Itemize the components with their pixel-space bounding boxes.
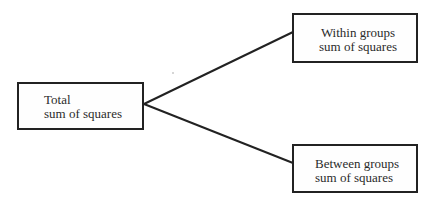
connector-total-to-between (144, 104, 293, 163)
between-label-line1: Between groups (315, 157, 399, 171)
total-label-line2: sum of squares (44, 107, 122, 121)
within-label-line2: sum of squares (319, 40, 397, 54)
within-groups-sum-of-squares-box: Within groups sum of squares (292, 13, 418, 63)
between-label-line2: sum of squares (315, 171, 399, 185)
within-label-line1: Within groups (319, 26, 397, 40)
connector-total-to-within (144, 32, 293, 104)
total-label-line1: Total (44, 93, 122, 107)
total-sum-of-squares-box: Total sum of squares (17, 82, 144, 130)
total-sum-of-squares-label: Total sum of squares (44, 93, 122, 121)
scan-speck (172, 72, 174, 74)
between-groups-label: Between groups sum of squares (315, 157, 399, 185)
between-groups-sum-of-squares-box: Between groups sum of squares (292, 144, 418, 193)
within-groups-label: Within groups sum of squares (319, 26, 397, 54)
